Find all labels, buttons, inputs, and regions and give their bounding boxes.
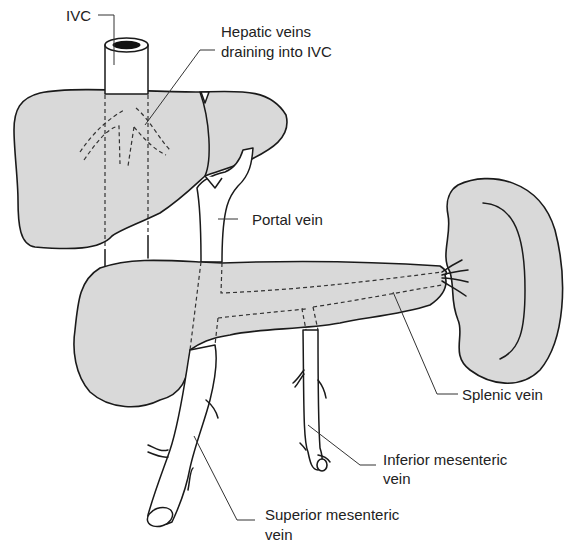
- label-portal-vein: Portal vein: [252, 210, 323, 229]
- label-splenic-vein: Splenic vein: [462, 385, 543, 404]
- label-hepatic-veins-line2: draining into IVC: [221, 42, 332, 61]
- pancreas: [74, 260, 446, 406]
- diagram-canvas: IVC Hepatic veins draining into IVC Port…: [0, 0, 578, 551]
- label-hepatic-veins-line1: Hepatic veins: [221, 22, 311, 41]
- label-superior-mesenteric-line2: vein: [265, 525, 293, 544]
- label-inferior-mesenteric-line1: Inferior mesenteric: [383, 450, 507, 469]
- label-inferior-mesenteric-line2: vein: [383, 469, 411, 488]
- label-ivc: IVC: [66, 6, 91, 25]
- label-superior-mesenteric-line1: Superior mesenteric: [265, 505, 399, 524]
- inferior-mesenteric-vein: [293, 330, 330, 471]
